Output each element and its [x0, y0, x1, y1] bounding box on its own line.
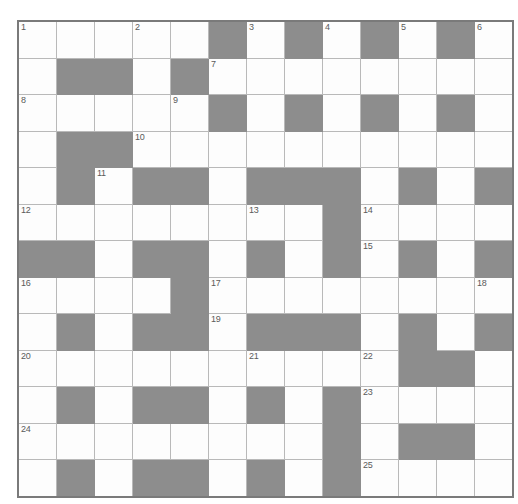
crossword-open-cell[interactable]: 17 [209, 277, 247, 314]
crossword-open-cell[interactable] [209, 460, 247, 497]
crossword-open-cell[interactable] [399, 387, 437, 424]
crossword-open-cell[interactable]: 21 [247, 350, 285, 387]
crossword-open-cell[interactable] [57, 95, 95, 132]
crossword-open-cell[interactable] [285, 204, 323, 241]
crossword-open-cell[interactable] [437, 241, 475, 278]
crossword-open-cell[interactable] [18, 387, 57, 424]
crossword-open-cell[interactable] [437, 314, 475, 351]
crossword-open-cell[interactable] [437, 460, 475, 497]
crossword-open-cell[interactable]: 16 [18, 277, 57, 314]
crossword-open-cell[interactable] [171, 423, 209, 460]
crossword-open-cell[interactable] [171, 204, 209, 241]
crossword-open-cell[interactable] [57, 204, 95, 241]
crossword-open-cell[interactable] [437, 131, 475, 168]
crossword-open-cell[interactable] [209, 168, 247, 205]
crossword-open-cell[interactable]: 4 [323, 21, 361, 58]
crossword-open-cell[interactable] [399, 58, 437, 95]
crossword-open-cell[interactable]: 12 [18, 204, 57, 241]
crossword-open-cell[interactable] [133, 350, 171, 387]
crossword-open-cell[interactable] [475, 387, 514, 424]
crossword-open-cell[interactable] [18, 314, 57, 351]
crossword-open-cell[interactable] [95, 460, 133, 497]
crossword-open-cell[interactable] [133, 95, 171, 132]
crossword-open-cell[interactable] [247, 95, 285, 132]
crossword-open-cell[interactable]: 23 [361, 387, 399, 424]
crossword-open-cell[interactable]: 15 [361, 241, 399, 278]
crossword-open-cell[interactable] [399, 131, 437, 168]
crossword-open-cell[interactable]: 2 [133, 21, 171, 58]
crossword-open-cell[interactable] [171, 350, 209, 387]
crossword-open-cell[interactable] [323, 58, 361, 95]
crossword-open-cell[interactable]: 14 [361, 204, 399, 241]
crossword-open-cell[interactable] [133, 58, 171, 95]
crossword-open-cell[interactable] [209, 131, 247, 168]
crossword-open-cell[interactable] [285, 277, 323, 314]
crossword-open-cell[interactable]: 13 [247, 204, 285, 241]
crossword-open-cell[interactable] [399, 460, 437, 497]
crossword-open-cell[interactable] [209, 204, 247, 241]
crossword-open-cell[interactable] [285, 131, 323, 168]
crossword-open-cell[interactable] [95, 95, 133, 132]
crossword-open-cell[interactable] [209, 387, 247, 424]
crossword-open-cell[interactable] [18, 131, 57, 168]
crossword-open-cell[interactable] [57, 277, 95, 314]
crossword-open-cell[interactable] [95, 387, 133, 424]
crossword-open-cell[interactable] [437, 58, 475, 95]
crossword-open-cell[interactable]: 3 [247, 21, 285, 58]
crossword-open-cell[interactable] [361, 277, 399, 314]
crossword-open-cell[interactable] [399, 277, 437, 314]
crossword-open-cell[interactable] [285, 350, 323, 387]
crossword-open-cell[interactable] [323, 95, 361, 132]
crossword-open-cell[interactable] [285, 58, 323, 95]
crossword-open-cell[interactable] [361, 423, 399, 460]
crossword-open-cell[interactable] [57, 423, 95, 460]
crossword-open-cell[interactable]: 22 [361, 350, 399, 387]
crossword-open-cell[interactable] [57, 350, 95, 387]
crossword-open-cell[interactable] [361, 131, 399, 168]
crossword-open-cell[interactable] [95, 350, 133, 387]
crossword-open-cell[interactable] [133, 204, 171, 241]
crossword-open-cell[interactable] [437, 387, 475, 424]
crossword-open-cell[interactable] [475, 350, 514, 387]
crossword-open-cell[interactable]: 7 [209, 58, 247, 95]
crossword-open-cell[interactable]: 6 [475, 21, 514, 58]
crossword-open-cell[interactable] [323, 277, 361, 314]
crossword-open-cell[interactable] [285, 423, 323, 460]
crossword-open-cell[interactable]: 10 [133, 131, 171, 168]
crossword-open-cell[interactable] [475, 131, 514, 168]
crossword-open-cell[interactable] [475, 460, 514, 497]
crossword-open-cell[interactable] [285, 460, 323, 497]
crossword-open-cell[interactable]: 9 [171, 95, 209, 132]
crossword-open-cell[interactable] [285, 241, 323, 278]
crossword-open-cell[interactable] [171, 21, 209, 58]
crossword-open-cell[interactable]: 25 [361, 460, 399, 497]
crossword-open-cell[interactable]: 1 [18, 21, 57, 58]
crossword-open-cell[interactable] [247, 277, 285, 314]
crossword-open-cell[interactable]: 19 [209, 314, 247, 351]
crossword-open-cell[interactable] [133, 423, 171, 460]
crossword-open-cell[interactable] [18, 460, 57, 497]
crossword-open-cell[interactable]: 20 [18, 350, 57, 387]
crossword-grid[interactable]: 1234567891011121314151617181920212223242… [17, 20, 514, 498]
crossword-open-cell[interactable] [361, 58, 399, 95]
crossword-open-cell[interactable] [95, 241, 133, 278]
crossword-open-cell[interactable]: 8 [18, 95, 57, 132]
crossword-open-cell[interactable]: 5 [399, 21, 437, 58]
crossword-open-cell[interactable] [18, 58, 57, 95]
crossword-open-cell[interactable] [247, 58, 285, 95]
crossword-open-cell[interactable] [209, 350, 247, 387]
crossword-open-cell[interactable] [95, 314, 133, 351]
crossword-open-cell[interactable] [95, 204, 133, 241]
crossword-open-cell[interactable] [437, 168, 475, 205]
crossword-open-cell[interactable] [475, 423, 514, 460]
crossword-open-cell[interactable] [95, 423, 133, 460]
crossword-open-cell[interactable] [323, 350, 361, 387]
crossword-open-cell[interactable] [323, 131, 361, 168]
crossword-open-cell[interactable] [209, 423, 247, 460]
crossword-open-cell[interactable] [95, 277, 133, 314]
crossword-open-cell[interactable]: 24 [18, 423, 57, 460]
crossword-open-cell[interactable] [361, 168, 399, 205]
crossword-open-cell[interactable] [95, 21, 133, 58]
crossword-open-cell[interactable] [133, 277, 171, 314]
crossword-open-cell[interactable] [285, 387, 323, 424]
